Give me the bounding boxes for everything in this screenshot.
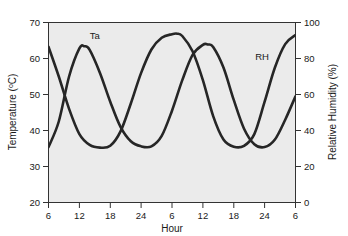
y-tick-label: 40	[29, 125, 40, 136]
chart-svg: 70 60 50 40 30 20 100 80 60 40 20 0	[0, 0, 348, 236]
x-tick-label: 18	[105, 210, 116, 221]
y-tick-label: 20	[29, 197, 40, 208]
chart-figure: 70 60 50 40 30 20 100 80 60 40 20 0	[0, 0, 348, 236]
y-tick-label: 30	[29, 161, 40, 172]
x-tick-label: 24	[136, 210, 147, 221]
x-axis-title: Hour	[161, 223, 183, 234]
y2-tick-label: 100	[304, 17, 320, 28]
y2-tick-label: 20	[304, 161, 315, 172]
y-tick-label: 70	[29, 17, 40, 28]
y-axis-title-prefix: Temperature (	[7, 87, 18, 150]
x-tick-label: 6	[169, 210, 174, 221]
y2-tick-label: 0	[304, 197, 309, 208]
y-axis-left-title: Temperature (oC)	[7, 74, 18, 151]
y-axis-right-title: Relative Humidity (%)	[327, 64, 338, 160]
y-axis-title-suffix: C)	[7, 74, 18, 85]
x-tick-label: 6	[46, 210, 51, 221]
y2-tick-label: 60	[304, 89, 315, 100]
y2-tick-label: 40	[304, 125, 315, 136]
y2-tick-label: 80	[304, 53, 315, 64]
x-axis-tick-labels: 6 12 18 24 6 12 18 24 6	[46, 210, 298, 221]
series-annotation-ta: Ta	[90, 30, 101, 41]
svg-text:Temperature (oC): Temperature (oC)	[7, 74, 18, 151]
x-tick-label: 6	[293, 210, 298, 221]
y-tick-label: 50	[29, 89, 40, 100]
x-tick-label: 12	[198, 210, 209, 221]
y-tick-label: 60	[29, 53, 40, 64]
x-tick-label: 18	[229, 210, 240, 221]
x-tick-label: 12	[74, 210, 85, 221]
y2-axis-title-text: Relative Humidity (%)	[327, 64, 338, 160]
x-tick-label: 24	[259, 210, 270, 221]
series-annotation-rh: RH	[255, 51, 269, 62]
